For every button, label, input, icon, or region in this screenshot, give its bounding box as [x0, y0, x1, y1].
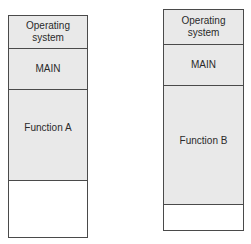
segment-main: MAIN — [9, 49, 87, 90]
segment-label: system — [32, 32, 64, 44]
segment-function-b: Function B — [164, 86, 243, 205]
segment-label: Operating — [182, 15, 226, 27]
segment-label: Operating — [26, 20, 70, 32]
segment-label: Function A — [24, 122, 71, 134]
memory-column-left: Operating system MAIN Function A — [8, 15, 88, 238]
segment-operating-system: Operating system — [164, 10, 243, 45]
segment-free — [9, 181, 87, 237]
memory-column-right: Operating system MAIN Function B — [163, 9, 244, 231]
segment-free — [164, 205, 243, 230]
segment-function-a: Function A — [9, 90, 87, 181]
segment-label: MAIN — [36, 63, 61, 75]
segment-operating-system: Operating system — [9, 16, 87, 49]
segment-label: system — [188, 27, 220, 39]
segment-main: MAIN — [164, 45, 243, 86]
segment-label: Function B — [180, 135, 228, 147]
segment-label: MAIN — [191, 59, 216, 71]
